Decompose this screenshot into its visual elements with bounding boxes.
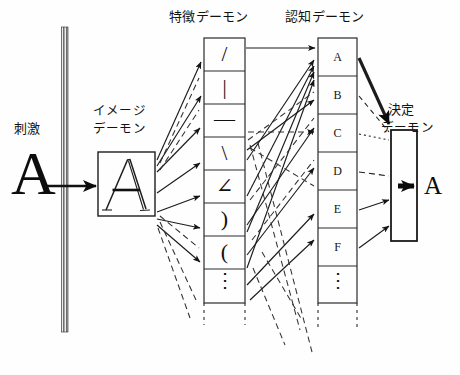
cognitive-cell-more-icon: ⋮ [318,270,357,290]
feature-cell-horizontal-bar[interactable]: — [204,109,245,130]
image-demon-label-line2: デーモン [93,122,146,136]
feature-cell-backslash[interactable]: \ [204,143,245,164]
feature-cell-left-paren[interactable]: ( [204,241,245,263]
feature-cell-right-paren[interactable]: ) [204,208,245,230]
decision-demon-label-line1: 決定 [388,103,415,118]
stimulus-label: 刺激 [14,122,41,137]
decision-demon-label-line2: デーモン [381,121,434,135]
cognitive-cell-d[interactable]: D [318,165,357,177]
diagram-canvas: 刺激 A イメージ デーモン 特徴デーモン 認知デーモン 決定 デーモン A /… [0,0,460,375]
feature-cell-angle[interactable]: ∠ [204,176,245,197]
feature-cell-more-icon: ⋮ [204,270,245,290]
cognitive-cell-b[interactable]: B [318,89,357,101]
cognitive-cell-a[interactable]: A [318,51,357,63]
cognitive-demon-label: 認知デーモン [285,10,365,25]
cognitive-cell-c[interactable]: C [318,127,357,139]
cognitive-to-decision-links [359,58,389,248]
cognitive-cell-e[interactable]: E [318,203,357,215]
feature-cell-vertical-bar[interactable]: | [204,77,245,98]
stimulus-glyph: A [11,142,56,204]
cognitive-cell-f[interactable]: F [318,241,357,253]
image-demon-box [98,152,155,216]
feature-demon-label: 特徴デーモン [169,10,249,25]
image-to-feature-links-dashed [158,78,199,318]
output-glyph: A [424,173,442,198]
retina-bar [62,27,69,332]
image-demon-label-line1: イメージ [93,104,146,118]
feature-cell-slash[interactable]: / [204,44,245,65]
